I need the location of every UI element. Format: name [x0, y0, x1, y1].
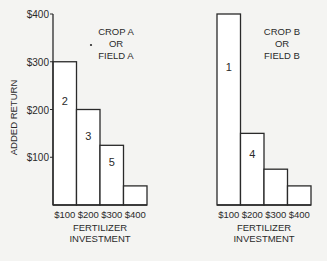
y-tick-label: $100 [27, 152, 50, 163]
bar-label: 4 [249, 148, 255, 160]
x-axis-label: FERTILIZER [237, 222, 291, 233]
chart-crop-b: 1$1004$200$300$400FERTILIZERINVESTMENTCR… [217, 14, 311, 244]
y-tick-label: $300 [27, 57, 50, 68]
y-tick-label: $400 [27, 9, 50, 20]
x-axis-label: FERTILIZER [73, 222, 127, 233]
y-axis-label: ADDED RETURN [8, 80, 19, 156]
x-tick-label: $100 [54, 209, 75, 220]
x-tick-label: $200 [78, 209, 99, 220]
x-tick-label: $200 [242, 209, 263, 220]
chart-title: FIELD B [264, 50, 300, 61]
chart-title: CROP A [98, 26, 134, 37]
bar-label: 5 [109, 156, 115, 168]
bar [288, 186, 312, 205]
bar [77, 110, 101, 206]
bar-label: 3 [85, 130, 91, 142]
x-tick-label: $300 [265, 209, 286, 220]
chart-title: FIELD A [98, 50, 134, 61]
bar [53, 62, 77, 205]
bar [100, 145, 124, 205]
x-axis-label: INVESTMENT [69, 233, 130, 244]
y-tick-label: $200 [27, 105, 50, 116]
bar [124, 186, 148, 205]
x-tick-label: $400 [125, 209, 146, 220]
dot-mark [90, 44, 92, 46]
chart-crop-a: 2$1003$2005$300$400FERTILIZERINVESTMENTC… [8, 9, 147, 244]
bar-label: 2 [62, 95, 68, 107]
bar [241, 133, 265, 205]
x-tick-label: $400 [289, 209, 310, 220]
fertilizer-return-charts: 2$1003$2005$300$400FERTILIZERINVESTMENTC… [0, 0, 327, 261]
bar [217, 14, 241, 205]
x-tick-label: $300 [101, 209, 122, 220]
x-tick-label: $100 [218, 209, 239, 220]
bar-label: 1 [226, 61, 232, 73]
bar [264, 169, 288, 205]
chart-title: OR [109, 38, 123, 49]
x-axis-label: INVESTMENT [233, 233, 294, 244]
chart-title: CROP B [264, 26, 300, 37]
chart-title: OR [275, 38, 289, 49]
